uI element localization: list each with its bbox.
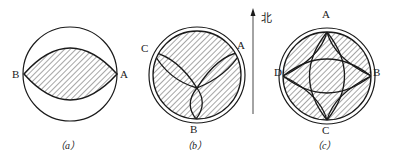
north-label: 北 <box>261 12 272 24</box>
point-label-b: B <box>12 68 19 80</box>
point-label-b: B <box>373 66 380 78</box>
point-label-a: A <box>237 39 245 51</box>
point-label-c: C <box>322 124 329 136</box>
caption-c: （c） <box>312 140 336 151</box>
panel-c-hatched-disk <box>283 32 371 120</box>
point-label-a: A <box>120 68 128 80</box>
caption-b: （b） <box>182 140 207 151</box>
caption-a: （a） <box>55 140 80 151</box>
figure-canvas: B A （a） C A B （b） 北 <box>0 0 398 160</box>
point-label-d: D <box>274 66 282 78</box>
panel-c: A B C D （c） <box>274 8 380 151</box>
point-label-a: A <box>322 8 330 20</box>
north-arrow: 北 <box>251 8 273 114</box>
point-label-c: C <box>141 42 148 54</box>
point-label-b: B <box>190 123 197 135</box>
panel-a-hatched-lens <box>24 48 117 100</box>
panel-b: C A B （b） <box>141 27 245 151</box>
north-arrowhead-icon <box>251 8 256 16</box>
panel-a: B A （a） <box>12 27 128 151</box>
